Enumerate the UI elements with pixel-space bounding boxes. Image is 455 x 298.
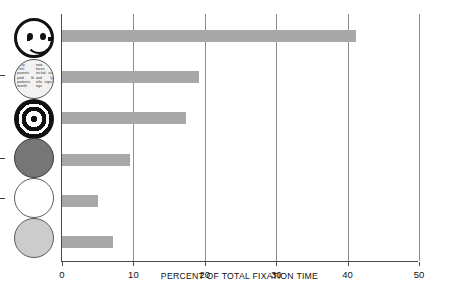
plot-area: 01020304050 <box>61 14 418 262</box>
bullseye-icon <box>14 99 54 139</box>
x-tick-0 <box>62 262 63 266</box>
newsprint-icon: rality Ther parents paid th patterns mon… <box>14 59 54 99</box>
stimulus-icon-bullseye <box>14 99 54 139</box>
face-smile-icon <box>26 38 52 54</box>
bar-white-disk <box>62 195 98 207</box>
x-tick-10 <box>133 262 134 266</box>
x-axis-title: PERCENT OF TOTAL FIXATION TIME <box>61 271 418 281</box>
dark-gray-disk-icon <box>14 138 54 178</box>
stimulus-icon-schematic-face <box>14 18 54 58</box>
x-tick-50 <box>419 262 420 266</box>
fixation-time-bar-chart: rality Ther parents paid th patterns mon… <box>0 0 455 298</box>
stimulus-icon-light-gray-disk <box>14 218 54 258</box>
bar-light-gray-disk <box>62 236 113 248</box>
white-disk-icon <box>14 178 54 218</box>
stimulus-icon-newsprint: rality Ther parents paid th patterns mon… <box>14 59 54 99</box>
left-margin-tick <box>0 75 5 76</box>
schematic-face-icon <box>14 18 54 58</box>
left-margin-tick <box>0 198 5 199</box>
gridline-10 <box>133 14 134 261</box>
bar-newsprint <box>62 71 199 83</box>
newsprint-text: rality Ther parents paid th patterns mon… <box>17 63 53 97</box>
x-tick-40 <box>348 262 349 266</box>
stimulus-icon-column: rality Ther parents paid th patterns mon… <box>0 0 61 262</box>
light-gray-disk-icon <box>14 218 54 258</box>
gridline-20 <box>205 14 206 261</box>
gridline-40 <box>348 14 349 261</box>
bar-bullseye <box>62 112 186 124</box>
bar-schematic-face <box>62 30 356 42</box>
stimulus-icon-white-disk <box>14 178 54 218</box>
stimulus-icon-dark-gray-disk <box>14 138 54 178</box>
gridline-50 <box>419 14 420 261</box>
x-tick-30 <box>276 262 277 266</box>
gridline-30 <box>276 14 277 261</box>
bar-dark-gray-disk <box>62 154 130 166</box>
x-tick-20 <box>205 262 206 266</box>
left-margin-tick <box>0 158 5 159</box>
